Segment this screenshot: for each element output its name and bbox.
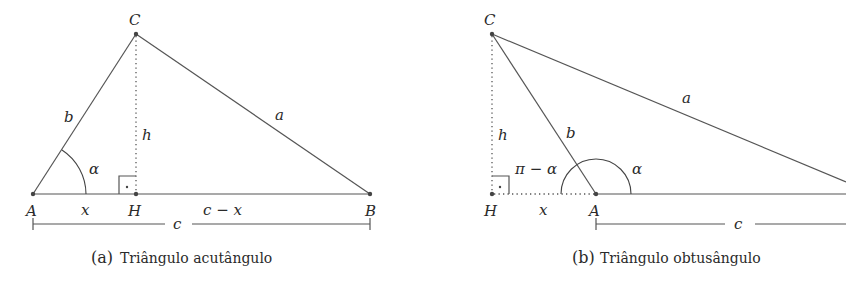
label-alpha-b: α xyxy=(632,160,642,178)
label-h-a: h xyxy=(142,126,152,144)
label-b-a: b xyxy=(64,108,74,126)
label-a-b: a xyxy=(682,89,691,107)
angle-alpha-arc-a xyxy=(62,150,86,194)
label-b-b: b xyxy=(566,124,576,142)
label-x-a: x xyxy=(81,201,90,219)
point-B-a xyxy=(368,192,372,196)
caption-prefix-b: (b) xyxy=(572,248,595,267)
right-angle-marker-b xyxy=(492,176,509,194)
figure-a-acute-triangle: C A H B b a h α x c − x c (a) Triângulo … xyxy=(24,11,376,267)
point-C-a xyxy=(134,32,138,36)
label-C-a: C xyxy=(129,11,141,29)
label-B-a: B xyxy=(364,202,376,220)
right-angle-dot-a xyxy=(126,186,128,188)
caption-b: Triângulo obtusângulo xyxy=(600,250,761,266)
point-C-b xyxy=(490,32,494,36)
side-b-a xyxy=(33,34,136,194)
triangle-figures: C A H B b a h α x c − x c (a) Triângulo … xyxy=(0,0,846,287)
point-H-b xyxy=(490,192,494,196)
point-A-a xyxy=(31,192,35,196)
label-A-b: A xyxy=(587,202,600,220)
side-a-a xyxy=(136,34,370,194)
label-pi-minus-alpha-b: π − α xyxy=(514,160,557,178)
label-c-a: c xyxy=(173,215,182,233)
right-angle-marker-a xyxy=(119,176,136,194)
point-H-a xyxy=(134,192,138,196)
right-angle-dot-b xyxy=(499,186,501,188)
label-C-b: C xyxy=(484,11,496,29)
angle-arc-b xyxy=(561,159,631,194)
label-x-b: x xyxy=(539,201,548,219)
label-H-a: H xyxy=(127,202,142,220)
label-a-a: a xyxy=(275,106,284,124)
caption-a: Triângulo acutângulo xyxy=(120,250,272,266)
label-H-b: H xyxy=(483,202,498,220)
label-A-a: A xyxy=(24,202,37,220)
caption-prefix-a: (a) xyxy=(91,248,113,267)
label-c-b: c xyxy=(734,215,743,233)
label-alpha-a: α xyxy=(89,160,99,178)
point-A-b xyxy=(594,192,598,196)
label-h-b: h xyxy=(498,126,508,144)
label-c-minus-x-a: c − x xyxy=(203,201,243,219)
figure-b-obtuse-triangle: C H A a b h π − α α x c (b) Triângulo ob… xyxy=(483,11,846,267)
